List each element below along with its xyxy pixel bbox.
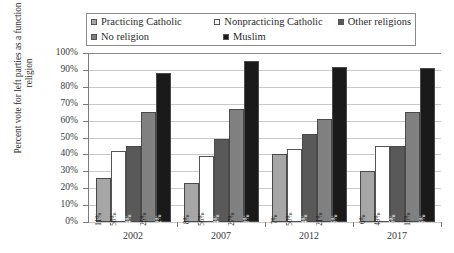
legend-label-no-religion: No religion xyxy=(101,31,149,42)
legend-swatch-icon-other-religions xyxy=(338,19,344,25)
bar-2017-practicing-catholic: 6% xyxy=(360,171,375,222)
legend-label-nonpracticing-catholic: Nonpracticing Catholic xyxy=(224,16,322,27)
legend-item-muslim: Muslim xyxy=(223,31,355,42)
bar-data-label-2012-practicing-catholic: 7% xyxy=(272,214,279,224)
legend-swatch-icon-nonpracticing-catholic xyxy=(214,19,220,25)
bar-data-label-2017-muslim: 5% xyxy=(420,214,427,224)
legend-swatch-icon-muslim xyxy=(223,34,229,40)
bar-data-label-2017-other-religions: 5% xyxy=(390,214,397,224)
bar-group-2007: 8%56%4%27%3% xyxy=(177,53,265,222)
legend-swatch-icon-no-religion xyxy=(91,34,97,40)
bar-group-2017: 6%49%5%15%5% xyxy=(353,53,441,222)
bar-2007-other-religions: 4% xyxy=(214,139,229,222)
bar-data-label-2002-other-religions: 4% xyxy=(126,214,133,224)
bar-group-2002: 11%58%4%25%2% xyxy=(89,53,177,222)
bar-data-label-2002-muslim: 2% xyxy=(156,214,163,224)
y-tick-label-70: 70% xyxy=(36,99,78,109)
legend-row-2: No religion Muslim xyxy=(91,31,411,46)
bar-2012-no-religion: 21% xyxy=(317,119,332,222)
bar-2017-other-religions: 5% xyxy=(390,146,405,222)
legend-item-no-religion: No religion xyxy=(91,31,223,42)
x-axis-label-2012: 2012 xyxy=(269,231,349,241)
bar-2017-nonpracticing-catholic: 49% xyxy=(375,146,390,222)
bar-data-label-2002-nonpracticing-catholic: 58% xyxy=(111,212,118,225)
chart-root: Practicing Catholic Nonpracticing Cathol… xyxy=(0,0,454,253)
legend-label-other-religions: Other religions xyxy=(348,16,411,27)
bar-data-label-2007-no-religion: 27% xyxy=(229,212,236,225)
bar-2002-nonpracticing-catholic: 58% xyxy=(111,151,126,222)
x-axis-label-2017: 2017 xyxy=(357,231,437,241)
bar-data-label-2012-muslim: 5% xyxy=(332,214,339,224)
bar-data-label-2007-practicing-catholic: 8% xyxy=(184,214,191,224)
bar-data-label-2007-muslim: 3% xyxy=(244,214,251,224)
bar-2012-other-religions: 4% xyxy=(302,134,317,222)
bar-data-label-2017-nonpracticing-catholic: 49% xyxy=(375,212,382,225)
bar-2012-nonpracticing-catholic: 50% xyxy=(287,149,302,222)
bar-data-label-2012-other-religions: 4% xyxy=(302,214,309,224)
x-tick-mark-2007 xyxy=(265,222,266,227)
bar-data-label-2012-nonpracticing-catholic: 50% xyxy=(287,212,294,225)
bar-data-label-2017-no-religion: 15% xyxy=(405,212,412,225)
bar-2012-muslim: 5% xyxy=(332,67,347,222)
bar-data-label-2007-other-religions: 4% xyxy=(214,214,221,224)
y-tick-label-50: 50% xyxy=(36,133,78,143)
legend-swatch-icon-practicing-catholic xyxy=(91,19,97,25)
x-tick-mark-2012 xyxy=(353,222,354,227)
y-tick-label-100: 100% xyxy=(36,48,78,58)
bar-2002-practicing-catholic: 11% xyxy=(96,178,111,222)
bar-data-label-2002-no-religion: 25% xyxy=(141,212,148,225)
y-tick-label-20: 20% xyxy=(36,183,78,193)
bar-data-label-2002-practicing-catholic: 11% xyxy=(96,213,103,226)
bar-2017-no-religion: 15% xyxy=(405,112,420,222)
bar-2002-muslim: 2% xyxy=(156,73,171,222)
bar-2007-muslim: 3% xyxy=(244,61,259,222)
bar-2007-practicing-catholic: 8% xyxy=(184,183,199,222)
y-tick-label-40: 40% xyxy=(36,149,78,159)
bar-2017-muslim: 5% xyxy=(420,68,435,222)
legend-item-other-religions: Other religions xyxy=(338,16,411,27)
legend-item-nonpracticing-catholic: Nonpracticing Catholic xyxy=(214,16,337,27)
y-tick-label-10: 10% xyxy=(36,200,78,210)
bar-2002-other-religions: 4% xyxy=(126,146,141,222)
x-axis-label-2007: 2007 xyxy=(181,231,261,241)
bar-2002-no-religion: 25% xyxy=(141,112,156,222)
bar-group-2012: 7%50%4%21%5% xyxy=(265,53,353,222)
bar-data-label-2012-no-religion: 21% xyxy=(317,212,324,225)
y-tick-label-60: 60% xyxy=(36,116,78,126)
bar-data-label-2017-practicing-catholic: 6% xyxy=(360,214,367,224)
legend-label-practicing-catholic: Practicing Catholic xyxy=(101,16,182,27)
bar-2012-practicing-catholic: 7% xyxy=(272,154,287,222)
bar-2007-no-religion: 27% xyxy=(229,109,244,222)
x-tick-mark-2017 xyxy=(441,222,442,227)
x-axis-label-2002: 2002 xyxy=(93,231,173,241)
y-tick-label-0: 0% xyxy=(36,217,78,227)
y-tick-label-30: 30% xyxy=(36,166,78,176)
y-tick-label-90: 90% xyxy=(36,65,78,75)
legend-label-muslim: Muslim xyxy=(233,31,266,42)
plot-area: 11%58%4%25%2%20028%56%4%27%3%20077%50%4%… xyxy=(88,53,441,223)
y-axis-title: Percent vote for left parties as a funct… xyxy=(13,0,35,163)
bar-data-label-2007-nonpracticing-catholic: 56% xyxy=(199,212,206,225)
bar-2007-nonpracticing-catholic: 56% xyxy=(199,156,214,222)
y-tick-label-80: 80% xyxy=(36,82,78,92)
chart-legend: Practicing Catholic Nonpracticing Cathol… xyxy=(86,13,416,46)
legend-row-1: Practicing Catholic Nonpracticing Cathol… xyxy=(91,16,411,31)
x-tick-mark-2002 xyxy=(177,222,178,227)
legend-item-practicing-catholic: Practicing Catholic xyxy=(91,16,214,27)
